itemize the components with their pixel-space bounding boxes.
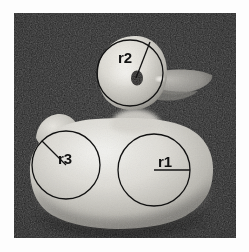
duck-photograph: r2 r3 r1 bbox=[14, 13, 236, 238]
figure-root: r2 r3 r1 bbox=[0, 0, 249, 252]
photo-frame: r2 r3 r1 bbox=[14, 13, 236, 238]
film-grain-overlay bbox=[14, 13, 236, 238]
